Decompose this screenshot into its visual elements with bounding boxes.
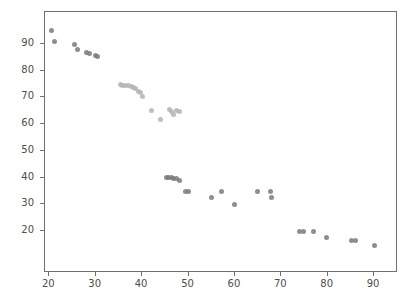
scatter-point <box>52 39 57 44</box>
scatter-point <box>149 108 154 113</box>
scatter-point <box>219 189 224 194</box>
scatter-point <box>268 189 273 194</box>
scatter-point <box>372 243 377 248</box>
scatter-points-layer <box>0 0 413 306</box>
scatter-point <box>158 117 163 122</box>
scatter-point <box>209 195 214 200</box>
scatter-point <box>255 189 260 194</box>
scatter-point <box>87 51 92 56</box>
scatter-point <box>269 195 274 200</box>
scatter-point <box>311 229 316 234</box>
scatter-point <box>353 238 358 243</box>
scatter-point <box>177 109 182 114</box>
scatter-point <box>324 235 329 240</box>
chart-container: 2030405060708090 2030405060708090 <box>0 0 413 306</box>
scatter-point <box>95 54 100 59</box>
scatter-point <box>232 202 237 207</box>
scatter-point <box>49 28 54 33</box>
scatter-point <box>75 47 80 52</box>
scatter-point <box>177 178 182 183</box>
scatter-point <box>186 189 191 194</box>
scatter-point <box>140 94 145 99</box>
scatter-point <box>301 229 306 234</box>
